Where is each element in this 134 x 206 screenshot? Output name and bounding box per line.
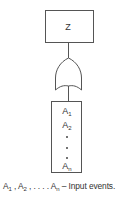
caption-a1: A: [3, 181, 9, 191]
input-a2: A2: [52, 121, 82, 131]
top-event-text: Z: [65, 22, 71, 32]
input-an: An: [52, 162, 82, 172]
ellipsis-dot-2: [66, 147, 68, 149]
top-event-label: Z: [58, 23, 78, 32]
input-a1-sub: 1: [68, 111, 71, 117]
caption-a1-sub: 1: [9, 186, 12, 192]
input-an-sub: n: [68, 166, 71, 172]
caption: A1 , A2 , . . . . An – Input events.: [3, 181, 133, 191]
input-a2-sub: 2: [68, 125, 71, 131]
caption-a2-sub: 2: [23, 186, 26, 192]
ellipsis-dot-3: [66, 157, 68, 159]
input-a1: A1: [52, 107, 82, 117]
caption-sep2: , . . . .: [27, 181, 51, 191]
or-gate-icon: [56, 58, 82, 90]
caption-an-sub: n: [56, 186, 59, 192]
caption-text: – Input events.: [60, 181, 116, 191]
ellipsis-dot-1: [66, 136, 68, 138]
